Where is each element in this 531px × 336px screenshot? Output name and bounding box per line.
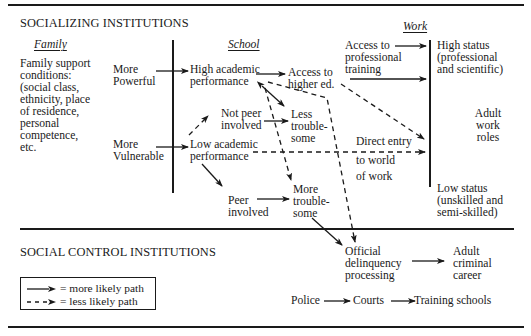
dashed-low-to-not-peer — [189, 116, 208, 135]
dashed-high-to-more-troublesome — [265, 88, 291, 180]
legend: = more likely path = less likely path — [20, 277, 156, 310]
dashed-higher-ed-to-adult-work — [341, 84, 424, 139]
arrow-more-to-official — [312, 218, 342, 245]
dashed-arrow-icon — [27, 298, 57, 306]
dashed-high-to-official-delinquency — [268, 82, 355, 242]
legend-dashed: = less likely path — [27, 295, 138, 307]
solid-arrow-icon — [27, 285, 57, 293]
arrow-low-to-peer — [202, 164, 222, 186]
legend-solid: = more likely path — [27, 282, 144, 294]
